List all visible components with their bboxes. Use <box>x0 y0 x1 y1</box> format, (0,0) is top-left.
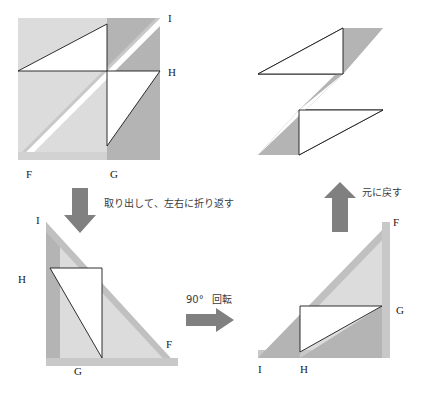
right-edge-band-bottomright <box>382 222 390 358</box>
arrow-up-label: 元に戻す <box>362 186 402 198</box>
arrow-down-label: 取り出して、左右に折り返す <box>104 197 234 209</box>
diagram-canvas: I H F G <box>0 0 423 394</box>
arrow-down-icon <box>64 188 96 233</box>
arrow-up-icon <box>324 182 356 232</box>
figure-root: I H F G <box>0 0 423 394</box>
vertex-label-I-bottomleft: I <box>36 214 40 226</box>
vertex-label-G-bottomleft: G <box>74 365 82 377</box>
vertex-label-H-bottomleft: H <box>18 273 26 285</box>
vertex-label-H-topleft: H <box>168 66 176 78</box>
panel-bottom-left: I H G F <box>18 214 178 377</box>
rotate-angle-label: 90° <box>186 294 204 305</box>
bottom-strip-light <box>18 152 107 160</box>
rotate-label: 回転 <box>212 294 232 305</box>
arrow-right-rotate: 90° 回転 <box>186 294 234 332</box>
vertex-label-H-bottomright: H <box>300 363 308 375</box>
z-lower-white-triangle-stroke <box>299 110 383 155</box>
arrow-down-extract: 取り出して、左右に折り返す <box>64 188 234 233</box>
panel-top-left: I H F G <box>18 12 176 180</box>
vertex-label-G-topleft: G <box>110 168 118 180</box>
vertex-label-G-bottomright: G <box>396 304 404 316</box>
vertex-label-F-bottomright: F <box>393 216 399 228</box>
arrow-right-icon <box>186 308 234 332</box>
vertex-label-I-topleft: I <box>168 12 172 24</box>
vertex-label-F-bottomleft: F <box>166 338 172 350</box>
bottom-edge-strip-bottomleft <box>46 358 178 366</box>
panel-bottom-right: F G I H <box>258 216 404 375</box>
arrow-up-restore: 元に戻す <box>324 182 402 232</box>
z-upper-white-triangle-stroke <box>258 28 343 74</box>
z-upper-band-cap <box>343 28 383 74</box>
vertex-label-I-bottomright: I <box>258 363 262 375</box>
panel-top-right <box>258 28 383 155</box>
vertex-label-F-topleft: F <box>26 168 32 180</box>
